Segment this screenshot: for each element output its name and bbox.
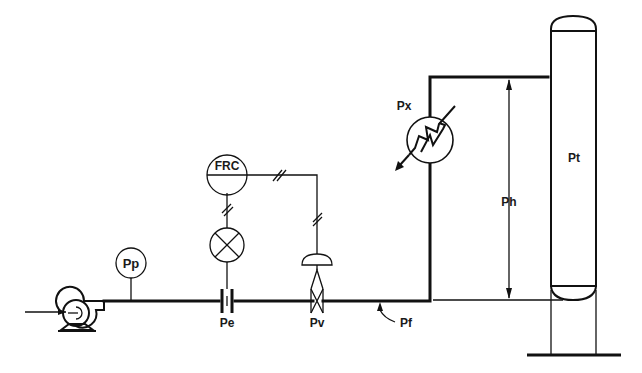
process-diagram: Pp Pe FRC Pv: [0, 0, 642, 373]
flow-controller-icon: FRC: [207, 155, 247, 195]
control-signal-line: [247, 170, 322, 254]
elevation-dimension: [433, 79, 563, 300]
control-valve-icon: [302, 254, 332, 313]
tower-icon: [527, 16, 621, 355]
pf-label: Pf: [400, 316, 413, 330]
pe-label: Pe: [220, 316, 235, 330]
pp-label: Pp: [123, 256, 140, 271]
pipe-to-tower: [323, 77, 548, 301]
ph-label: Ph: [501, 195, 516, 209]
px-label: Px: [397, 99, 412, 113]
pump-icon: [56, 287, 104, 331]
pv-label: Pv: [310, 316, 325, 330]
pt-label: Pt: [568, 151, 580, 165]
orifice-plate-icon: [222, 289, 232, 313]
pump-pressure-gauge: Pp: [116, 248, 146, 301]
heat-exchanger-icon: [395, 106, 455, 171]
frc-label: FRC: [215, 159, 240, 173]
friction-pointer: [377, 302, 395, 322]
flow-transmitter-icon: [210, 193, 244, 289]
